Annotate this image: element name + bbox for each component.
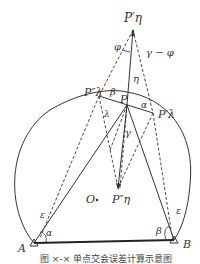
label-peta-dd: P″η xyxy=(111,193,131,206)
label-plambda-dd: P″λ xyxy=(83,86,102,99)
label-p: P xyxy=(119,93,128,106)
figure-caption: 图 ×-× 单点交会误差计算示意图 xyxy=(40,253,172,264)
label-phi: φ xyxy=(114,41,121,52)
label-a: A xyxy=(17,242,26,255)
baseline-ab xyxy=(34,240,174,243)
label-gamma: γ xyxy=(125,127,131,138)
line-b-p xyxy=(127,105,174,240)
label-epsilon-left: ε xyxy=(40,210,45,220)
line-p-peta xyxy=(127,30,133,105)
label-b: B xyxy=(182,238,191,251)
label-beta-b: β xyxy=(155,225,162,236)
label-peta-prime: P′η xyxy=(123,11,143,25)
label-epsilon-right: ε xyxy=(176,206,181,216)
label-gamma-minus-phi: γ − φ xyxy=(146,47,174,58)
label-plambda-prime: P′λ xyxy=(157,108,175,121)
label-eta: η xyxy=(133,73,139,84)
label-alpha-a: α xyxy=(46,228,52,238)
label-lambda: λ xyxy=(103,109,110,119)
label-o: O xyxy=(86,193,95,206)
line-a-p xyxy=(34,105,127,243)
intersection-error-diagram: P′η φ γ − φ η P″λ β P α P′λ λ γ O P″η ε … xyxy=(0,0,200,264)
label-beta-top: β xyxy=(109,86,116,97)
label-alpha-top: α xyxy=(141,100,147,110)
